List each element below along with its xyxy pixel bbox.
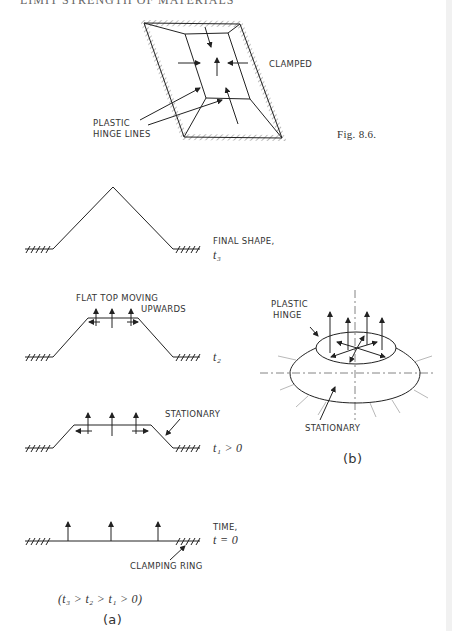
stage-t2-profile: [25, 309, 200, 361]
plastic-hinge-label-2: HINGE: [273, 310, 302, 320]
stationary-label-b: STATIONARY: [305, 423, 360, 433]
stage-t0-profile: [25, 522, 200, 560]
flat-top-label: FLAT TOP MOVING: [76, 293, 158, 303]
caption-b: (b): [343, 451, 362, 466]
time-relation: (t₃ > t₂ > t₁ > 0): [58, 592, 142, 607]
time-label: TIME,: [213, 522, 238, 532]
clamped-label: CLAMPED: [269, 59, 312, 69]
stage-t3-profile: [25, 187, 200, 253]
t1-label: t₁ > 0: [213, 441, 242, 456]
t3-label: t₃: [213, 248, 221, 263]
plastic-hinge-label-1: PLASTIC: [271, 299, 308, 309]
caption-a: (a): [103, 612, 122, 627]
upwards-label: UPWARDS: [141, 304, 186, 314]
t0-label: t = 0: [213, 533, 238, 548]
t2-label: t₂: [213, 350, 221, 365]
clamping-ring-label: CLAMPING RING: [130, 561, 203, 571]
fig-8-6-caption: Fig. 8.6.: [337, 128, 376, 140]
hinge-lines-label-1: PLASTIC: [93, 118, 130, 128]
stationary-label-a: STATIONARY: [165, 409, 220, 419]
final-shape-label: FINAL SHAPE,: [213, 236, 274, 246]
fig-8-6-plate: [140, 23, 282, 138]
hinge-lines-label-2: HINGE LINES: [93, 129, 151, 139]
